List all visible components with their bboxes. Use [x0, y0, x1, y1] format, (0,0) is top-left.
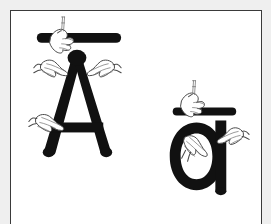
uppercase-left-foot [43, 147, 55, 157]
lowercase-stem-foot [215, 187, 226, 195]
lowercase-bowl [170, 122, 224, 190]
hand-on-lowercase-macron [181, 81, 205, 117]
figure-root: Black-and-white line illustration of two… [0, 0, 271, 224]
letterforms-artwork [11, 11, 261, 224]
hand-right-of-apex [87, 60, 121, 77]
uppercase-right-foot [100, 147, 112, 157]
hand-left-of-apex [34, 60, 68, 77]
uppercase-apex-join [68, 50, 87, 66]
hand-in-bowl [182, 136, 208, 162]
illustration-plate: Black-and-white line illustration of two… [10, 10, 262, 224]
glyph-stage [11, 11, 261, 224]
glyph-uppercase-a-macron [37, 33, 121, 157]
lowercase-stem [215, 120, 226, 192]
